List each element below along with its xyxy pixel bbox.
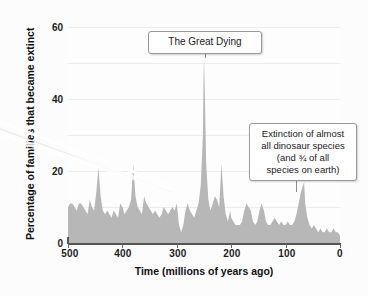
ytick-40: 40 bbox=[52, 94, 63, 105]
dinosaur-callout-line-3: (and ¾ of all bbox=[255, 152, 351, 164]
xtick-200: 200 bbox=[223, 248, 240, 259]
xtick-500: 500 bbox=[61, 248, 78, 259]
xtick-0: 0 bbox=[337, 248, 343, 259]
xtick-300: 300 bbox=[169, 248, 186, 259]
ytick-20: 20 bbox=[52, 166, 63, 177]
xtick-400: 400 bbox=[114, 248, 131, 259]
dinosaur-callout-line-2: all dinosaur species bbox=[255, 140, 351, 152]
x-axis-title: Time (millions of years ago) bbox=[68, 265, 340, 277]
dinosaur-callout-line-1: Extinction of almost bbox=[255, 128, 351, 140]
xtick-100: 100 bbox=[278, 248, 295, 259]
ytick-60: 60 bbox=[52, 22, 63, 33]
dinosaur-callout-line-4: species on earth) bbox=[255, 164, 351, 176]
great-dying-callout: The Great Dying bbox=[148, 31, 262, 54]
ytick-0: 0 bbox=[57, 238, 63, 249]
y-axis-title: Percentage of families that became extin… bbox=[24, 40, 36, 240]
dinosaur-extinction-callout: Extinction of almost all dinosaur specie… bbox=[249, 123, 357, 181]
extinction-chart-figure: 60 40 20 0 500 400 300 200 100 0 Percent… bbox=[0, 0, 368, 296]
x-axis-line bbox=[68, 243, 341, 245]
